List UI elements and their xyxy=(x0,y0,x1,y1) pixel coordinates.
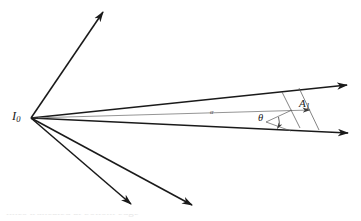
label-source-intensity: I0 xyxy=(12,110,21,123)
ray-down-right-2 xyxy=(31,118,192,205)
label-angle-alpha: α xyxy=(210,109,213,116)
ray-up-left xyxy=(31,12,103,118)
ray-down-right-1 xyxy=(31,118,131,204)
label-angle-theta: θ xyxy=(258,113,263,124)
ray-lower-beam xyxy=(31,118,348,133)
truncated-caption-strip: lines truncated at bottom edge xyxy=(0,214,361,221)
label-amplitude-a1: A1 xyxy=(299,98,310,110)
caption-text: lines truncated at bottom edge xyxy=(6,214,139,217)
ray-diagram-figure: I0 A1 θ α lines truncated at bottom edge xyxy=(0,0,361,221)
